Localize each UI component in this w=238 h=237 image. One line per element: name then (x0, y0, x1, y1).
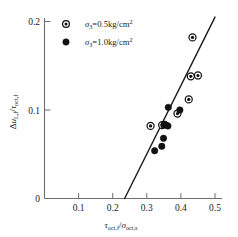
x-tick-label-0.1: 0.1 (73, 203, 85, 213)
svg-text:τoct,f/σoct,s: τoct,f/σoct,s (105, 220, 138, 231)
x-title-sigma-sub: oct,s (126, 224, 138, 231)
x-tick-label-0.4: 0.4 (175, 203, 187, 213)
y-tick-label-0.1: 0.1 (28, 106, 40, 116)
data-point-filled (161, 121, 167, 127)
legend: σ3=0.5kg/cm2 σ3=1.0kg/cm2 (63, 18, 133, 48)
scatter-plot: 0.2 0.1 0 0.1 0.2 0.3 0.4 0.5 τoct,f/σoc… (0, 0, 238, 237)
legend-marker-open-icon (63, 21, 70, 28)
y-tick-label-0: 0 (35, 194, 40, 204)
y-tick-label-0.2: 0.2 (28, 17, 40, 27)
data-point-filled (177, 107, 183, 113)
legend-entry-0: σ3=0.5kg/cm2 (63, 18, 133, 30)
chart-container: 0.2 0.1 0 0.1 0.2 0.3 0.4 0.5 τoct,f/σoc… (0, 0, 238, 237)
data-point-filled (159, 143, 165, 149)
legend-0-value: =0.5kg/cm (92, 19, 129, 29)
data-point-filled (160, 135, 166, 141)
y-tick-group (45, 22, 51, 111)
legend-1-exponent: 2 (129, 36, 132, 43)
series-sigma3-0.5 (147, 34, 201, 129)
x-tick-label-0.2: 0.2 (107, 203, 119, 213)
legend-label-1: σ3=1.0kg/cm2 (85, 36, 133, 48)
data-point-open (147, 122, 154, 129)
axis-group (45, 18, 223, 199)
x-tick-label-0.3: 0.3 (141, 203, 153, 213)
y-axis-title: ΔuL,f/τoct,f (8, 94, 19, 130)
legend-label-0: σ3=0.5kg/cm2 (85, 18, 133, 30)
data-point-open (194, 72, 201, 79)
legend-entry-1: σ3=1.0kg/cm2 (63, 36, 133, 48)
legend-1-value: =1.0kg/cm (92, 37, 129, 47)
data-point-open (189, 34, 196, 41)
legend-marker-filled-icon (63, 39, 69, 45)
y-title-tau-sub: oct,f (12, 94, 19, 106)
svg-text:ΔuL,f/τoct,f: ΔuL,f/τoct,f (8, 94, 19, 130)
data-point-filled (165, 104, 171, 110)
data-point-open (187, 73, 194, 80)
x-axis-title: τoct,f/σoct,s (105, 220, 138, 231)
data-point-filled (151, 148, 157, 154)
legend-0-exponent: 2 (129, 18, 132, 25)
x-tick-label-0.5: 0.5 (209, 203, 221, 213)
x-tick-group (79, 193, 215, 199)
data-point-open (185, 96, 192, 103)
